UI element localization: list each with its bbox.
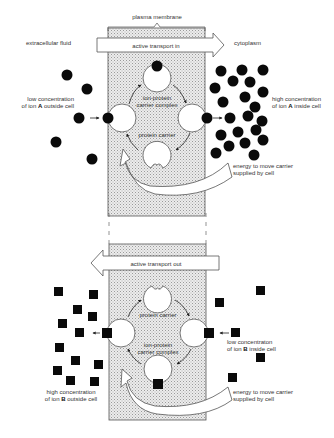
carrier-bottom-empty — [143, 141, 171, 168]
high-conc-a-line1: high concentration — [272, 96, 321, 102]
protein-carrier-label-b: protein carrier — [139, 312, 176, 318]
ions-a-inside — [210, 65, 269, 161]
high-conc-b-line1: high concentration — [46, 389, 95, 395]
ion-a-bound-right — [202, 113, 213, 124]
energy-label-top-line1: energy to move carrier — [233, 163, 293, 169]
active-transport-out-label: active transport out — [130, 261, 181, 267]
complex-label-line2: carrier complex — [136, 102, 177, 108]
carrier-right-b — [180, 319, 208, 347]
carrier-top-empty-b — [143, 286, 171, 313]
low-conc-a-line2: of ion A outside cell — [22, 103, 74, 109]
ions-b-inside — [215, 286, 265, 382]
bottom-section: active transport out protein carrier ion… — [45, 244, 293, 420]
ion-b-bound-bottom — [153, 379, 163, 389]
energy-label-top-line2: supplied by cell — [233, 170, 274, 176]
low-conc-a-line1: low concentration — [27, 96, 74, 102]
top-section: plasma membrane extracellular fluid cyto… — [22, 14, 321, 216]
low-conc-b-line1: low concentraton — [227, 339, 272, 345]
active-transport-diagram: plasma membrane extracellular fluid cyto… — [0, 0, 334, 438]
high-conc-b-line2: of ion B outside cell — [45, 396, 97, 402]
high-conc-a-line2: of ion A inside cell — [272, 103, 321, 109]
ion-a-bound-top — [152, 61, 163, 72]
ion-a-bound-left — [103, 113, 114, 124]
complex-label-b-line1: ion-protein — [144, 342, 172, 348]
ions-a-outside — [51, 70, 98, 165]
extracellular-fluid-label: extracellular fluid — [26, 40, 71, 46]
protein-carrier-label: protein carrier — [138, 132, 175, 138]
active-transport-in-label: active transport in — [132, 43, 179, 49]
ion-b-bound-left — [102, 328, 112, 338]
cytoplasm-label: cytoplasm — [234, 40, 261, 46]
energy-label-bottom-line2: supplied by cell — [233, 396, 274, 402]
carrier-bottom-b — [144, 355, 172, 383]
low-conc-b-line2: of ion B inside cell — [227, 346, 276, 352]
energy-label-bottom-line1: energy to move carrier — [233, 389, 293, 395]
ions-b-outside — [53, 287, 103, 386]
plasma-membrane-label: plasma membrane — [132, 14, 182, 20]
ion-b-bound-right — [204, 328, 214, 338]
complex-label-b-line2: carrier complex — [137, 349, 178, 355]
complex-label-line1: ion-protein — [143, 95, 171, 101]
